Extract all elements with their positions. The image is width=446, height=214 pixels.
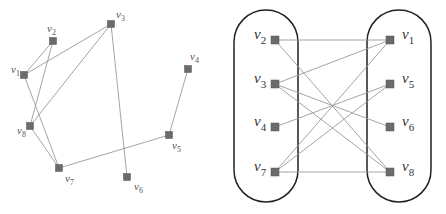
graph-drawing-left: v1v2v3v4v5v6v7v8 xyxy=(11,8,199,195)
nodes-layer xyxy=(21,21,192,181)
edge-v3-v6 xyxy=(111,24,127,177)
node-v8 xyxy=(386,168,394,176)
node-label-v7: v7 xyxy=(65,172,74,187)
node-label-v3: v3 xyxy=(116,8,125,23)
node-label-v4: v4 xyxy=(190,50,199,65)
node-v2 xyxy=(50,38,57,45)
edges-layer xyxy=(24,24,188,177)
labels-layer: v2v3v4v7v1v5v6v8 xyxy=(254,26,415,178)
node-v1 xyxy=(386,36,394,44)
edge-v3-v1 xyxy=(275,40,390,84)
node-label-v2: v2 xyxy=(254,26,266,46)
node-v6 xyxy=(386,123,394,131)
node-label-v6: v6 xyxy=(134,180,143,195)
node-label-v3: v3 xyxy=(254,70,267,90)
node-label-v1: v1 xyxy=(402,26,414,46)
node-v5 xyxy=(386,80,394,88)
edges-layer xyxy=(275,40,390,172)
node-v7 xyxy=(271,168,279,176)
node-v8 xyxy=(27,123,34,130)
edge-v8-v7 xyxy=(30,126,59,168)
edge-v7-v5 xyxy=(59,135,169,168)
node-label-v4: v4 xyxy=(254,113,267,133)
node-label-v1: v1 xyxy=(11,63,20,78)
figure: v1v2v3v4v5v6v7v8 v2v3v4v7v1v5v6v8 xyxy=(0,0,446,214)
figure-svg: v1v2v3v4v5v6v7v8 v2v3v4v7v1v5v6v8 xyxy=(0,0,446,214)
node-v7 xyxy=(56,165,63,172)
edge-v1-v3 xyxy=(24,24,111,75)
node-v1 xyxy=(21,72,28,79)
edge-v2-v8 xyxy=(30,41,53,126)
node-v3 xyxy=(108,21,115,28)
node-v2 xyxy=(271,36,279,44)
node-label-v6: v6 xyxy=(402,113,415,133)
node-label-v2: v2 xyxy=(47,22,56,37)
node-v5 xyxy=(166,132,173,139)
node-v3 xyxy=(271,80,279,88)
node-label-v5: v5 xyxy=(172,139,181,154)
node-label-v8: v8 xyxy=(17,124,26,139)
edge-v5-v4 xyxy=(169,69,188,135)
node-v4 xyxy=(271,123,279,131)
edge-v3-v8 xyxy=(30,24,111,126)
node-label-v7: v7 xyxy=(254,158,267,178)
node-v4 xyxy=(185,66,192,73)
node-label-v5: v5 xyxy=(402,70,415,90)
node-label-v8: v8 xyxy=(402,158,415,178)
edge-v1-v7 xyxy=(24,75,59,168)
labels-layer: v1v2v3v4v5v6v7v8 xyxy=(11,8,199,195)
bipartite-drawing-right: v2v3v4v7v1v5v6v8 xyxy=(234,10,431,202)
right-partition-outline xyxy=(367,10,431,202)
node-v6 xyxy=(124,174,131,181)
